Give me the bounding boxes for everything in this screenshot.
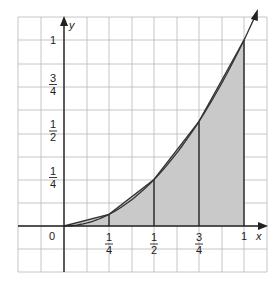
svg-text:2: 2 [151, 244, 157, 256]
x-axis-label: x [255, 230, 262, 242]
svg-text:1: 1 [106, 231, 112, 243]
svg-text:1: 1 [241, 230, 247, 242]
curve-arrowhead-icon [251, 9, 258, 21]
svg-text:1: 1 [50, 34, 56, 46]
x-axis-arrowhead-icon [258, 222, 268, 230]
svg-text:3: 3 [196, 231, 202, 243]
x-tick-labels: 1412341 [105, 230, 247, 256]
svg-text:4: 4 [196, 244, 202, 256]
svg-text:2: 2 [50, 131, 56, 143]
origin-label: 0 [49, 230, 55, 242]
y-axis-label: y [68, 19, 76, 31]
svg-text:1: 1 [50, 165, 56, 177]
svg-text:4: 4 [50, 178, 56, 190]
svg-text:4: 4 [106, 244, 112, 256]
trapezoid-figure: x y 0 1412341 1412341 [0, 0, 275, 281]
svg-text:1: 1 [50, 118, 56, 130]
y-axis-arrowhead-icon [60, 16, 68, 26]
svg-text:4: 4 [50, 85, 56, 97]
y-tick-labels: 1412341 [49, 34, 57, 190]
svg-text:1: 1 [151, 231, 157, 243]
svg-text:3: 3 [50, 72, 56, 84]
